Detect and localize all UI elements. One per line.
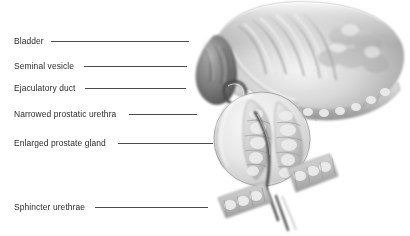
leader-line-enlarged-prostate-gland xyxy=(118,143,213,144)
callout-sphincter-urethrae[interactable]: Sphincter urethrae xyxy=(14,200,208,214)
leader-line-bladder xyxy=(51,41,189,42)
callout-bladder[interactable]: Bladder xyxy=(14,34,189,48)
leader-line-narrowed-prostatic-urethra xyxy=(129,114,197,115)
label-bladder: Bladder xyxy=(14,34,44,48)
leader-line-sphincter-urethrae xyxy=(95,207,208,208)
label-ejaculatory-duct: Ejaculatory duct xyxy=(14,81,76,95)
label-seminal-vesicle: Seminal vesicle xyxy=(14,59,74,73)
callout-seminal-vesicle[interactable]: Seminal vesicle xyxy=(14,59,187,73)
callout-enlarged-prostate-gland[interactable]: Enlarged prostate gland xyxy=(14,136,213,150)
leader-line-ejaculatory-duct xyxy=(85,88,186,89)
leader-line-seminal-vesicle xyxy=(84,66,187,67)
label-sphincter-urethrae: Sphincter urethrae xyxy=(14,200,85,214)
callout-narrowed-prostatic-urethra[interactable]: Narrowed prostatic urethra xyxy=(14,107,197,121)
anatomical-figure: Bladder Seminal vesicle Ejaculatory duct… xyxy=(0,0,410,236)
callout-ejaculatory-duct[interactable]: Ejaculatory duct xyxy=(14,81,186,95)
label-narrowed-prostatic-urethra: Narrowed prostatic urethra xyxy=(14,107,116,121)
label-enlarged-prostate-gland: Enlarged prostate gland xyxy=(14,136,106,150)
